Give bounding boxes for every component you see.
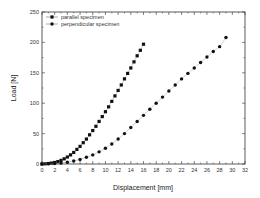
x-tick-label: 26 bbox=[204, 167, 210, 173]
data-point bbox=[78, 145, 81, 148]
data-point bbox=[82, 141, 85, 144]
data-point bbox=[212, 50, 215, 53]
data-point bbox=[174, 83, 177, 86]
data-point bbox=[69, 153, 72, 156]
data-point bbox=[167, 89, 170, 92]
y-tick-label: 200 bbox=[30, 39, 39, 45]
x-tick-label: 22 bbox=[179, 167, 185, 173]
data-point bbox=[91, 129, 94, 132]
y-tick-label: 250 bbox=[30, 9, 39, 15]
chart: 0246810121416182022242628303205010015020… bbox=[0, 0, 260, 198]
data-point bbox=[72, 151, 75, 154]
data-point bbox=[50, 161, 53, 164]
x-tick-label: 10 bbox=[102, 167, 108, 173]
data-point bbox=[107, 105, 110, 108]
x-tick-label: 18 bbox=[153, 167, 159, 173]
data-point bbox=[113, 94, 116, 97]
data-point bbox=[63, 157, 66, 160]
data-point bbox=[104, 110, 107, 113]
data-point bbox=[120, 83, 123, 86]
data-point bbox=[85, 156, 88, 159]
data-point bbox=[136, 54, 139, 57]
data-point bbox=[180, 77, 183, 80]
axis-ticks: 0246810121416182022242628303205010015020… bbox=[30, 9, 248, 173]
data-point bbox=[139, 49, 142, 52]
data-point bbox=[142, 43, 145, 46]
data-point bbox=[97, 150, 100, 153]
data-point bbox=[91, 153, 94, 156]
data-point bbox=[66, 160, 69, 163]
data-point bbox=[78, 158, 81, 161]
legend: parallel specimenperpendicular specimen bbox=[46, 14, 119, 27]
data-point bbox=[135, 120, 138, 123]
data-point bbox=[129, 126, 132, 129]
data-point bbox=[116, 137, 119, 140]
data-point bbox=[154, 102, 157, 105]
legend-label: perpendicular specimen bbox=[61, 21, 119, 27]
x-tick-label: 4 bbox=[66, 167, 69, 173]
x-tick-label: 0 bbox=[40, 167, 43, 173]
data-point bbox=[47, 162, 50, 165]
data-point bbox=[59, 161, 62, 164]
x-tick-label: 12 bbox=[115, 167, 121, 173]
data-point bbox=[104, 146, 107, 149]
x-tick-label: 8 bbox=[91, 167, 94, 173]
data-point bbox=[110, 142, 113, 145]
data-point bbox=[110, 100, 113, 103]
plot-frame bbox=[42, 12, 245, 164]
data-point bbox=[75, 148, 78, 151]
data-point bbox=[85, 137, 88, 140]
data-point bbox=[88, 133, 91, 136]
data-point bbox=[97, 120, 100, 123]
data-point bbox=[72, 159, 75, 162]
x-tick-label: 6 bbox=[79, 167, 82, 173]
x-tick-label: 20 bbox=[166, 167, 172, 173]
data-point bbox=[142, 114, 145, 117]
data-point bbox=[132, 60, 135, 63]
y-axis-label: Load [N] bbox=[10, 75, 18, 102]
data-point bbox=[186, 72, 189, 75]
data-point bbox=[56, 160, 59, 163]
x-tick-label: 16 bbox=[140, 167, 146, 173]
data-point bbox=[199, 61, 202, 64]
data-point bbox=[129, 66, 132, 69]
x-axis-label: Displacement [mm] bbox=[113, 184, 173, 192]
data-point bbox=[126, 72, 129, 75]
data-point bbox=[123, 132, 126, 135]
data-point bbox=[40, 162, 43, 165]
y-tick-label: 0 bbox=[36, 161, 39, 167]
x-tick-label: 32 bbox=[242, 167, 248, 173]
data-point bbox=[66, 155, 69, 158]
data-point bbox=[148, 108, 151, 111]
x-tick-label: 28 bbox=[217, 167, 223, 173]
legend-label: parallel specimen bbox=[61, 14, 104, 20]
data-point bbox=[205, 55, 208, 58]
data-series bbox=[40, 36, 227, 166]
data-point bbox=[161, 95, 164, 98]
x-tick-label: 30 bbox=[229, 167, 235, 173]
data-point bbox=[123, 77, 126, 80]
x-tick-label: 2 bbox=[53, 167, 56, 173]
data-point bbox=[101, 115, 104, 118]
data-point bbox=[53, 162, 56, 165]
data-point bbox=[117, 89, 120, 92]
y-tick-label: 100 bbox=[30, 100, 39, 106]
data-point bbox=[224, 36, 227, 39]
x-tick-label: 14 bbox=[128, 167, 134, 173]
data-point bbox=[218, 45, 221, 48]
x-tick-label: 24 bbox=[191, 167, 197, 173]
data-point bbox=[94, 125, 97, 128]
data-point bbox=[193, 66, 196, 69]
y-tick-label: 50 bbox=[33, 131, 39, 137]
y-tick-label: 150 bbox=[30, 70, 39, 76]
